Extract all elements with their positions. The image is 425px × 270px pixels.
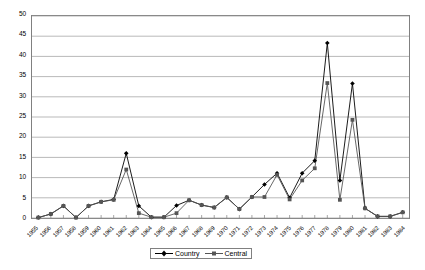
legend-marker-square-icon <box>205 250 223 257</box>
y-tick-label: 10 <box>4 174 26 181</box>
y-tick-label: 15 <box>4 154 26 161</box>
legend-label-central: Central <box>225 250 248 257</box>
y-tick-label: 0 <box>4 215 26 222</box>
y-tick-label: 20 <box>4 133 26 140</box>
y-tick-label: 25 <box>4 113 26 120</box>
legend-marker-diamond-icon <box>155 250 173 257</box>
y-tick-label: 50 <box>4 11 26 18</box>
y-tick-label: 40 <box>4 52 26 59</box>
plot-area <box>31 15 410 219</box>
chart-legend: Country Central <box>150 248 252 259</box>
legend-label-country: Country <box>175 250 200 257</box>
y-tick-label: 35 <box>4 72 26 79</box>
line-chart: 05101520253035404550 1955195619571958195… <box>0 0 425 270</box>
legend-item-central[interactable]: Central <box>205 250 248 257</box>
legend-item-country[interactable]: Country <box>155 250 200 257</box>
y-tick-label: 45 <box>4 31 26 38</box>
y-tick-label: 30 <box>4 93 26 100</box>
data-series-layer <box>32 16 409 218</box>
y-tick-label: 5 <box>4 195 26 202</box>
